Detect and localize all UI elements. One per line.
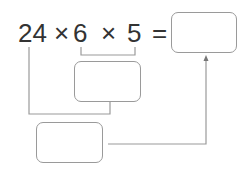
term-6: 6 [73, 18, 87, 48]
term-24: 24 [18, 18, 47, 48]
product-6-5-box[interactable] [74, 61, 141, 102]
bracket-6-5 [81, 47, 135, 55]
answer-box[interactable] [171, 12, 237, 53]
operator-times-1: × [54, 18, 69, 48]
operator-times-2: × [101, 18, 116, 48]
final-product-box[interactable] [36, 122, 103, 163]
arrow-up-icon [204, 55, 209, 61]
term-5: 5 [127, 18, 141, 48]
equals-sign: = [152, 18, 167, 48]
